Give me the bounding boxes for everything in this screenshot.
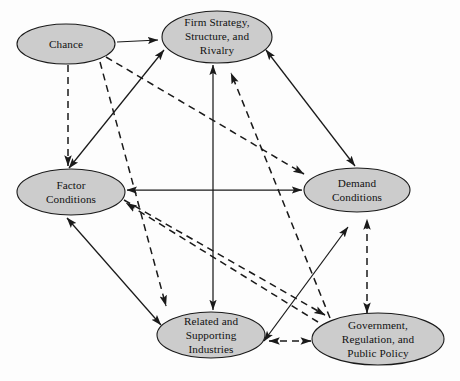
node-related-supporting-industries-label-line1: Related and bbox=[184, 315, 239, 327]
edge-factor-conditions-related-industries bbox=[67, 218, 161, 325]
node-factor-conditions-label-line2: Conditions bbox=[46, 193, 96, 205]
node-related-supporting-industries-label-line3: Industries bbox=[188, 343, 233, 355]
edge-factor-conditions-to-government bbox=[124, 200, 325, 315]
node-firm-strategy-label-line3: Rivalry bbox=[200, 44, 235, 56]
node-demand-conditions-label-line1: Demand bbox=[338, 177, 377, 189]
node-factor-conditions[interactable]: Factor Conditions bbox=[17, 169, 125, 215]
edge-firm-strategy-demand-conditions bbox=[266, 50, 355, 166]
edge-factor-conditions-firm-strategy bbox=[69, 50, 164, 168]
node-chance[interactable]: Chance bbox=[17, 24, 115, 64]
node-firm-strategy[interactable]: Firm Strategy, Structure, and Rivalry bbox=[162, 11, 272, 63]
node-demand-conditions-label-line2: Conditions bbox=[332, 191, 382, 203]
node-government-regulation-public-policy-label-line3: Public Policy bbox=[347, 347, 409, 359]
node-government-regulation-public-policy[interactable]: Government, Regulation, and Public Polic… bbox=[312, 313, 444, 365]
node-factor-conditions-shape[interactable] bbox=[17, 169, 125, 215]
node-factor-conditions-label-line1: Factor bbox=[56, 179, 85, 191]
node-firm-strategy-label-line1: Firm Strategy, bbox=[184, 16, 249, 28]
node-demand-conditions-shape[interactable] bbox=[304, 168, 410, 212]
diagram-canvas: Chance Firm Strategy, Structure, and Riv… bbox=[0, 0, 460, 381]
node-related-supporting-industries-label-line2: Supporting bbox=[186, 329, 237, 341]
node-government-regulation-public-policy-label-line1: Government, bbox=[348, 319, 408, 331]
node-chance-label: Chance bbox=[49, 38, 83, 50]
node-government-regulation-public-policy-label-line2: Regulation, and bbox=[342, 333, 415, 345]
edge-chance-to-demand-conditions bbox=[106, 57, 304, 174]
node-related-supporting-industries[interactable]: Related and Supporting Industries bbox=[157, 312, 265, 358]
node-firm-strategy-label-line2: Structure, and bbox=[185, 30, 249, 42]
node-demand-conditions[interactable]: Demand Conditions bbox=[304, 168, 410, 212]
edge-chance-to-firm-strategy bbox=[117, 40, 158, 42]
node-layer: Chance Firm Strategy, Structure, and Riv… bbox=[17, 11, 444, 365]
porter-diamond-diagram: Chance Firm Strategy, Structure, and Riv… bbox=[0, 0, 460, 381]
